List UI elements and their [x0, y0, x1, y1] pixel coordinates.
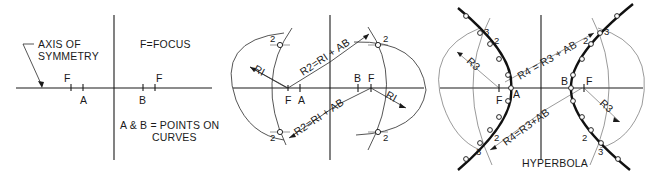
point-b-label: B	[354, 72, 361, 84]
curve-point-2	[589, 42, 594, 47]
curve-point	[464, 14, 469, 19]
mark-2-top-right: 2	[583, 35, 588, 46]
point-2-bottom-left	[277, 129, 282, 134]
r2-upper-arrowhead-icon	[363, 34, 369, 40]
point-a-label: A	[80, 94, 87, 106]
r3-left-radius	[457, 52, 499, 88]
mark-2-bottom-left: 2	[494, 132, 499, 143]
point-b-label: B	[561, 75, 568, 87]
focus-left-label: F	[496, 94, 503, 106]
curve-point-2	[589, 128, 594, 133]
curve-point	[464, 157, 469, 162]
focus-left-label: F	[285, 94, 292, 106]
axis-label-line1: AXIS OF	[38, 38, 81, 50]
mark-2-top-left: 2	[270, 33, 275, 44]
focus-left-label: F	[64, 72, 71, 84]
curve-point	[506, 73, 511, 78]
left-r1-arc	[231, 33, 284, 140]
points-legend-line2: CURVES	[152, 131, 197, 143]
curve-point	[615, 14, 620, 19]
left-r3-arc	[439, 28, 480, 150]
curve-point-b	[569, 86, 574, 91]
curve-point	[497, 115, 502, 120]
axis-label-line2: SYMMETRY	[38, 50, 99, 62]
r4-upper-formula: R4 = R3 + AB	[515, 38, 579, 82]
mark-2-bottom-right: 2	[383, 132, 388, 143]
point-b-label: B	[139, 94, 146, 106]
r3-right-arrowhead-icon	[613, 117, 620, 122]
curve-point-3	[599, 141, 604, 146]
curve-point	[497, 57, 502, 62]
point-a-label: A	[513, 88, 520, 100]
curve-point	[580, 115, 585, 120]
curve-point	[616, 157, 621, 162]
r1-right-arrowhead-icon	[399, 103, 406, 108]
mark-3-bottom-right: 3	[598, 146, 603, 157]
r3-left-label: R3	[465, 55, 483, 73]
hyperbola-title: HYPERBOLA	[522, 157, 588, 169]
focus-right-label: F	[156, 72, 163, 84]
focus-right-label: F	[368, 72, 375, 84]
curve-point-3	[478, 31, 483, 36]
panel-3-hyperbola: 3 2 3 2 3 2 3 2 F A B F R3 R3 R4 = R3 + …	[439, 4, 645, 170]
focus-legend: F=FOCUS	[140, 38, 191, 50]
mark-3-top-left: 3	[484, 26, 489, 37]
panel-1-setup: AXIS OF SYMMETRY F=FOCUS F F A B A & B =…	[16, 15, 219, 160]
mark-2-top-left: 2	[494, 35, 499, 46]
r4-upper-arrowhead-icon	[588, 33, 594, 38]
points-legend-line1: A & B = POINTS ON	[120, 119, 219, 131]
mark-2-bottom-left: 2	[270, 132, 275, 143]
curve-point-3	[478, 141, 483, 146]
mark-3-top-right: 3	[604, 26, 609, 37]
leader-arrowhead-icon	[38, 81, 44, 88]
curve-point	[506, 99, 511, 104]
r2-upper-formula: R2=RI + AB	[297, 36, 351, 78]
curve-point	[571, 73, 576, 78]
curve-point-2	[488, 128, 493, 133]
curve-point-2	[488, 42, 493, 47]
hyperbola-construction-diagram: AXIS OF SYMMETRY F=FOCUS F F A B A & B =…	[0, 0, 656, 178]
panel-2-arcs: 2 2 2 2 F A B F RI RI R2=RI + AB R2=RI +…	[231, 15, 426, 160]
curve-point	[580, 57, 585, 62]
point-a-label: A	[298, 94, 305, 106]
mark-3-bottom-left: 3	[476, 146, 481, 157]
mark-2-bottom-right: 2	[582, 132, 587, 143]
point-2-top-left	[277, 42, 282, 47]
point-2-bottom-right	[375, 129, 380, 134]
curve-point-3	[598, 31, 603, 36]
mark-2-top-right: 2	[383, 33, 388, 44]
focus-right-label: F	[586, 75, 593, 87]
r3-right-label: R3	[598, 97, 616, 115]
point-2-top-right	[375, 42, 380, 47]
curve-point	[571, 99, 576, 104]
